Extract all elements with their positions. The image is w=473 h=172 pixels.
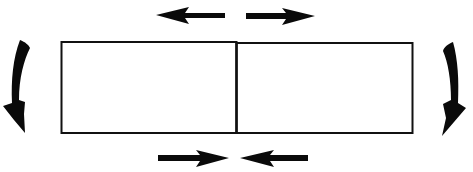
beam [62, 42, 413, 133]
arrow-right-icon [246, 8, 315, 25]
curved-arrow-down-right-icon [442, 42, 466, 136]
arrow-left-icon [240, 150, 308, 167]
arrow-right-icon [158, 150, 229, 167]
beam-right-segment [237, 43, 413, 133]
beam-left-segment [62, 42, 237, 133]
bottom-arrows [158, 150, 308, 167]
arrow-left-icon [156, 7, 225, 24]
top-arrows [156, 7, 315, 25]
beam-bending-diagram [0, 0, 473, 172]
curved-arrow-down-left-icon [3, 40, 30, 133]
